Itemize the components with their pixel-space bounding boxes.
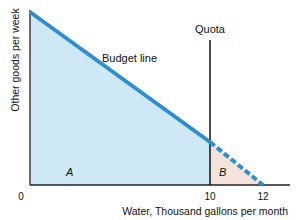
x-tick-12: 12 — [257, 191, 269, 202]
region-a — [30, 12, 210, 185]
region-b-label: B — [219, 166, 226, 178]
region-a-label: A — [65, 166, 73, 178]
x-tick-0: 0 — [18, 191, 24, 202]
x-axis-title: Water, Thousand gallons per month — [122, 205, 288, 217]
chart: Quota Budget line A B 0 10 12 Water, Tho… — [0, 0, 300, 220]
y-axis-title: Other goods per week — [9, 8, 21, 112]
quota-label: Quota — [195, 23, 226, 35]
budget-line-label: Budget line — [102, 52, 157, 64]
x-tick-10: 10 — [204, 191, 216, 202]
